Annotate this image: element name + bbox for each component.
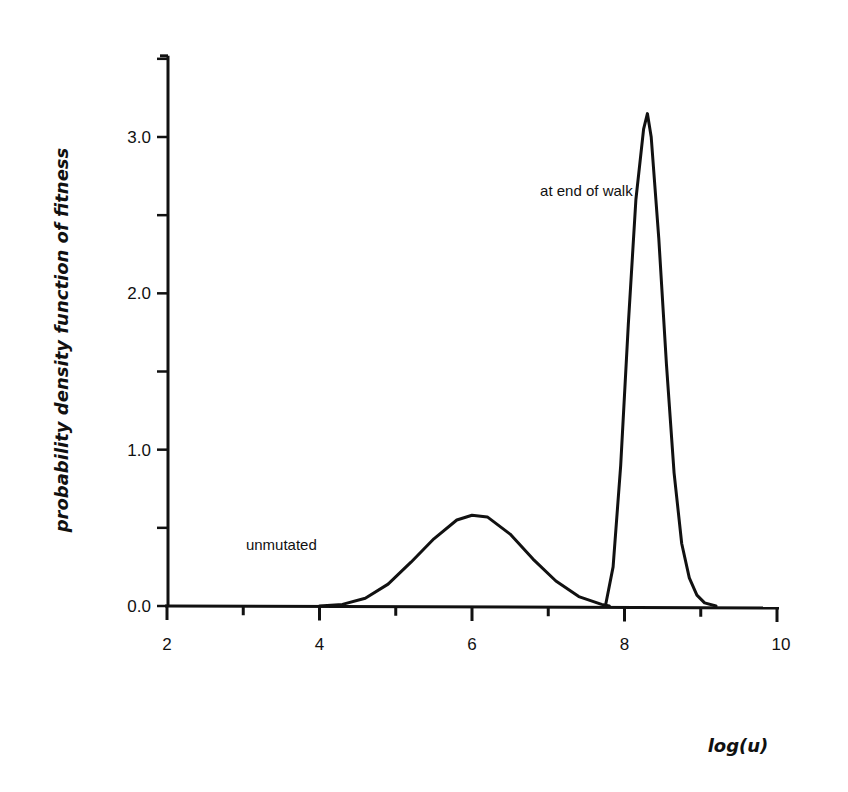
y-tick-label: 0.0	[127, 597, 151, 616]
density-chart: 0.01.02.03.0246810 unmutatedat end of wa…	[0, 0, 848, 792]
series	[320, 114, 717, 606]
x-tick-label: 6	[467, 635, 476, 654]
annotations: unmutatedat end of walk	[246, 182, 633, 552]
x-tick-label: 10	[772, 635, 791, 654]
x-tick-label: 4	[315, 635, 324, 654]
axes	[160, 56, 779, 608]
x-tick-label: 2	[162, 635, 171, 654]
curve-unmutated	[320, 515, 610, 606]
x-axis-title: log(u)	[708, 735, 769, 756]
annotation-unmutated: unmutated	[246, 536, 317, 553]
y-axis-title: probability density function of fitness	[51, 147, 72, 533]
annotation-at-end-of-walk: at end of walk	[540, 182, 633, 199]
y-tick-label: 1.0	[127, 441, 151, 460]
x-tick-label: 8	[620, 635, 629, 654]
y-tick-label: 3.0	[127, 128, 151, 147]
y-tick-label: 2.0	[127, 284, 151, 303]
tick-labels: 0.01.02.03.0246810	[127, 128, 790, 654]
